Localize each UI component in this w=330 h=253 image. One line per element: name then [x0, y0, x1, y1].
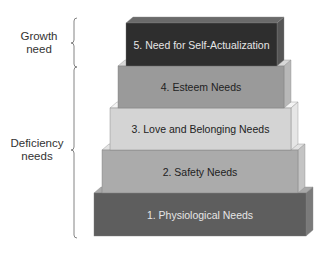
- tier-label-self-actualization: 5. Need for Self-Actualization: [126, 39, 277, 51]
- tier-side-face: [306, 187, 313, 236]
- deficiency-bracket: [71, 67, 77, 238]
- group-label-deficiency-line2: needs: [4, 150, 70, 163]
- group-label-deficiency-line1: Deficiency: [4, 137, 70, 150]
- group-label-growth-line2: need: [6, 43, 72, 56]
- tier-label-esteem: 4. Esteem Needs: [118, 81, 284, 93]
- tier-side-face: [298, 144, 305, 193]
- group-label-deficiency: Deficiency needs: [4, 137, 70, 163]
- group-label-growth: Growth need: [6, 30, 72, 56]
- tier-side-face: [291, 102, 298, 150]
- tier-top-face: [126, 17, 284, 23]
- tier-side-face: [284, 60, 291, 108]
- tier-side-face: [277, 17, 284, 66]
- tier-label-physiological: 1. Physiological Needs: [94, 209, 306, 221]
- tier-label-love-belonging: 3. Love and Belonging Needs: [110, 123, 291, 135]
- group-label-growth-line1: Growth: [6, 30, 72, 43]
- tier-label-safety: 2. Safety Needs: [102, 166, 298, 178]
